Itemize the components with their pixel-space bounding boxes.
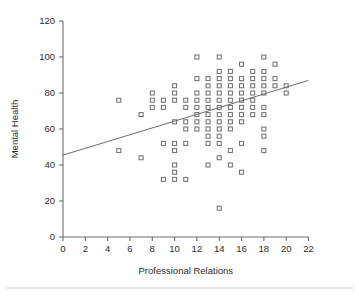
data-point [251,84,255,88]
data-point [262,127,266,131]
data-point [206,77,210,81]
y-axis-title: Mental Health [9,100,20,159]
data-point [195,127,199,131]
trend-line [63,80,309,155]
x-tick-label: 14 [214,243,225,254]
data-point [150,105,154,109]
data-point [217,113,221,117]
data-point [206,120,210,124]
data-point [161,141,165,145]
data-point [262,149,266,153]
data-point [228,84,232,88]
data-point [217,120,221,124]
data-point [206,134,210,138]
x-tick-label: 22 [303,243,314,254]
x-tick-label: 20 [281,243,292,254]
data-point [228,163,232,167]
data-point [161,105,165,109]
regression-line [63,80,309,155]
data-point [262,113,266,117]
data-point [217,134,221,138]
data-point [195,98,199,102]
x-axis-tick-labels: 0246810121416182022 [60,243,313,254]
data-point [251,98,255,102]
data-point [240,62,244,66]
data-point [195,105,199,109]
data-point [206,113,210,117]
data-point [262,69,266,73]
data-point [262,55,266,59]
data-point [262,77,266,81]
x-tick-label: 12 [192,243,203,254]
data-point [217,141,221,145]
data-point [262,134,266,138]
x-tick-label: 0 [60,243,65,254]
x-tick-label: 6 [127,243,132,254]
data-point [240,105,244,109]
data-point [173,149,177,153]
data-point [228,91,232,95]
data-point [173,163,177,167]
data-point [184,120,188,124]
data-point [273,77,277,81]
data-point [161,98,165,102]
plot-canvas: 0246810121416182022 020406080100120 Prof… [0,0,359,297]
data-point [150,98,154,102]
data-point [206,163,210,167]
data-point [173,170,177,174]
data-point [195,55,199,59]
data-point-markers [117,55,288,210]
x-tick-label: 18 [259,243,270,254]
y-axis-tick-labels: 020406080100120 [39,15,55,242]
data-point [117,98,121,102]
data-point [251,105,255,109]
data-point [195,77,199,81]
data-point [217,77,221,81]
data-point [139,113,143,117]
data-point [228,113,232,117]
data-point [173,141,177,145]
data-point [206,98,210,102]
data-point [228,149,232,153]
data-point [217,55,221,59]
data-point [240,91,244,95]
data-point [240,77,244,81]
data-point [240,120,244,124]
data-point [184,105,188,109]
data-point [228,127,232,131]
x-tick-label: 16 [236,243,247,254]
x-axis-title: Professional Relations [139,265,234,276]
data-point [206,105,210,109]
data-point [184,98,188,102]
data-point [173,84,177,88]
data-point [228,120,232,124]
data-point [206,91,210,95]
data-point [273,84,277,88]
data-point [284,91,288,95]
y-tick-label: 40 [44,159,55,170]
y-tick-label: 100 [39,51,55,62]
data-point [161,177,165,181]
data-point [240,170,244,174]
y-tick-label: 80 [44,87,55,98]
data-point [251,91,255,95]
y-tick-label: 20 [44,195,55,206]
data-point [262,84,266,88]
data-point [217,206,221,210]
data-point [240,141,244,145]
data-point [228,77,232,81]
data-point [117,149,121,153]
y-tick-label: 0 [50,231,55,242]
x-tick-label: 4 [105,243,110,254]
data-point [228,69,232,73]
data-point [262,105,266,109]
data-point [217,127,221,131]
data-point [184,127,188,131]
x-tick-label: 10 [169,243,180,254]
data-point [228,105,232,109]
data-point [195,91,199,95]
data-point [217,69,221,73]
x-tick-label: 8 [150,243,155,254]
data-point [217,98,221,102]
data-point [173,91,177,95]
